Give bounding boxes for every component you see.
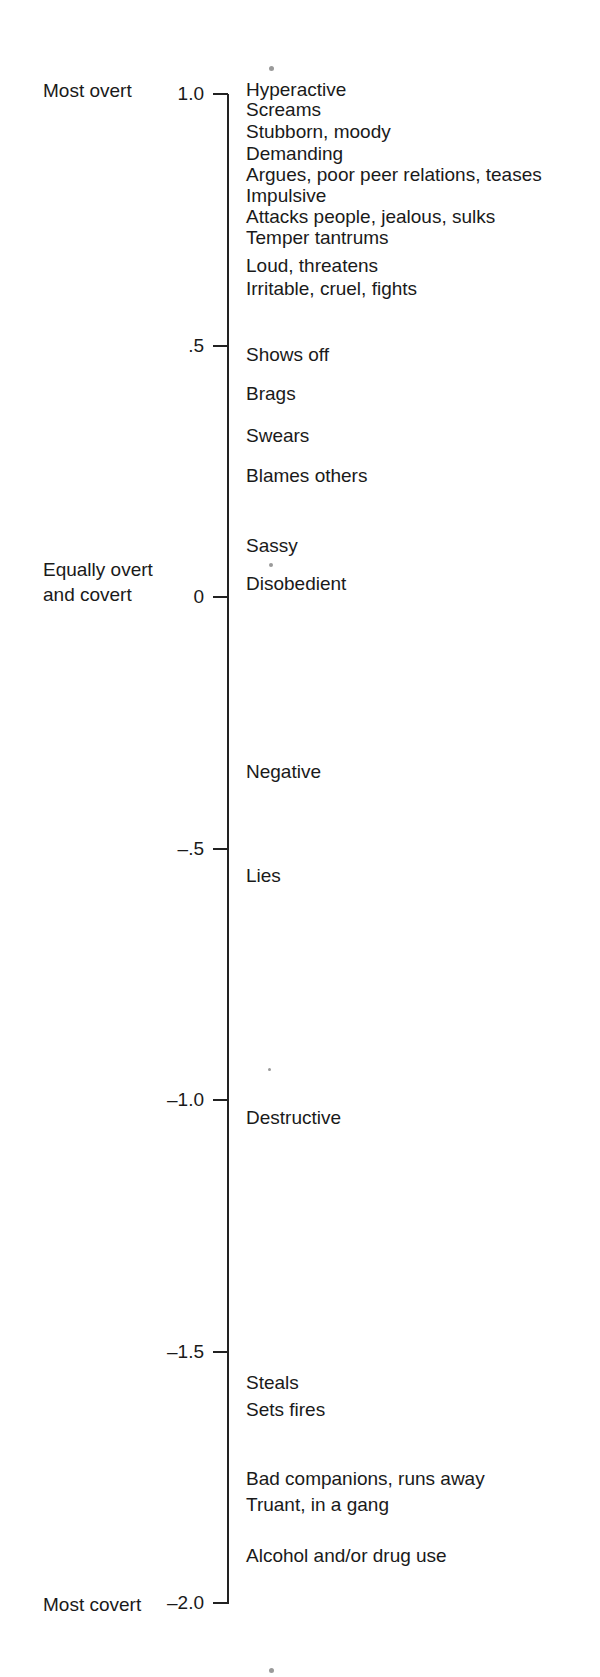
anchor-label: Equally overt: [43, 560, 153, 580]
behavior-item-label: Brags: [246, 384, 296, 404]
anchor-label: Most covert: [43, 1595, 141, 1615]
behavior-item-label: Swears: [246, 426, 309, 446]
behavior-item-label: Sets fires: [246, 1400, 325, 1420]
axis-tick-label: .5: [188, 336, 204, 356]
axis-tick-mark: [213, 596, 228, 598]
behavior-item-label: Argues, poor peer relations, teases: [246, 165, 542, 185]
behavior-item-label: Lies: [246, 866, 281, 886]
axis-tick-mark: [213, 1099, 228, 1101]
axis-tick-label: –1.0: [167, 1090, 204, 1110]
behavior-item-label: Destructive: [246, 1108, 341, 1128]
axis-tick-mark: [213, 93, 228, 95]
behavior-item-label: Temper tantrums: [246, 228, 389, 248]
scan-artifact-dot: [268, 1068, 271, 1071]
behavior-item-label: Irritable, cruel, fights: [246, 279, 417, 299]
axis-tick-label: –1.5: [167, 1342, 204, 1362]
axis-tick-mark: [213, 1602, 228, 1604]
behavior-item-label: Disobedient: [246, 574, 346, 594]
behavior-item-label: Screams: [246, 100, 321, 120]
overt-covert-scale-chart: 1.0.50–.5–1.0–1.5–2.0 Most overtEqually …: [0, 0, 600, 1677]
behavior-item-label: Shows off: [246, 345, 329, 365]
scan-artifact-dot: [269, 1668, 274, 1673]
axis-tick-label: 0: [193, 587, 204, 607]
behavior-item-label: Attacks people, jealous, sulks: [246, 207, 495, 227]
behavior-item-label: Steals: [246, 1373, 299, 1393]
axis-tick-mark: [213, 848, 228, 850]
behavior-item-label: Hyperactive: [246, 80, 346, 100]
scan-artifact-dot: [269, 66, 274, 71]
axis-tick-label: –2.0: [167, 1593, 204, 1613]
axis-tick-label: –.5: [178, 839, 204, 859]
behavior-item-label: Sassy: [246, 536, 298, 556]
behavior-item-label: Alcohol and/or drug use: [246, 1546, 447, 1566]
behavior-item-label: Impulsive: [246, 186, 326, 206]
behavior-item-label: Stubborn, moody: [246, 122, 391, 142]
anchor-label: Most overt: [43, 81, 132, 101]
behavior-item-label: Loud, threatens: [246, 256, 378, 276]
behavior-item-label: Blames others: [246, 466, 367, 486]
behavior-item-label: Negative: [246, 762, 321, 782]
axis-tick-mark: [213, 345, 228, 347]
axis-tick-label: 1.0: [178, 84, 204, 104]
axis-tick-mark: [213, 1351, 228, 1353]
behavior-item-label: Truant, in a gang: [246, 1495, 389, 1515]
behavior-item-label: Demanding: [246, 144, 343, 164]
scan-artifact-dot: [269, 563, 273, 567]
anchor-label: and covert: [43, 585, 132, 605]
behavior-item-label: Bad companions, runs away: [246, 1469, 485, 1489]
